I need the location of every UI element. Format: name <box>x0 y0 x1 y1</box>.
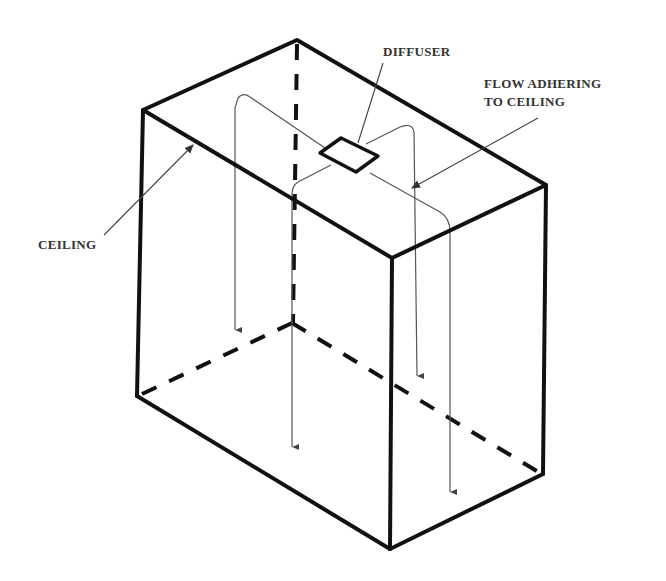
left-vertical-edge <box>137 110 143 396</box>
diffuser-leader <box>358 63 383 143</box>
diffuser-icon <box>320 138 378 172</box>
ceiling-leader <box>104 145 193 235</box>
room-airflow-diagram: DIFFUSER FLOW ADHERING TO CEILING CEILIN… <box>0 0 666 581</box>
hidden-edges <box>140 44 540 473</box>
hidden-floor-left-edge <box>140 323 292 395</box>
diffuser-label: DIFFUSER <box>383 44 451 59</box>
right-vertical-edge <box>543 185 546 474</box>
front-vertical-edge <box>390 258 392 549</box>
flow-leader <box>412 118 538 188</box>
bottom-left-edge <box>137 396 390 549</box>
flow-front-right <box>370 173 450 492</box>
flow-back-center <box>292 165 331 447</box>
leader-lines <box>104 63 538 235</box>
visible-edges <box>137 40 546 549</box>
flow-label-line1: FLOW ADHERING <box>484 76 601 91</box>
flow-label-line2: TO CEILING <box>484 94 565 109</box>
hidden-floor-right-edge <box>292 323 540 473</box>
bottom-right-edge <box>390 474 543 549</box>
ceiling-label: CEILING <box>38 237 96 252</box>
